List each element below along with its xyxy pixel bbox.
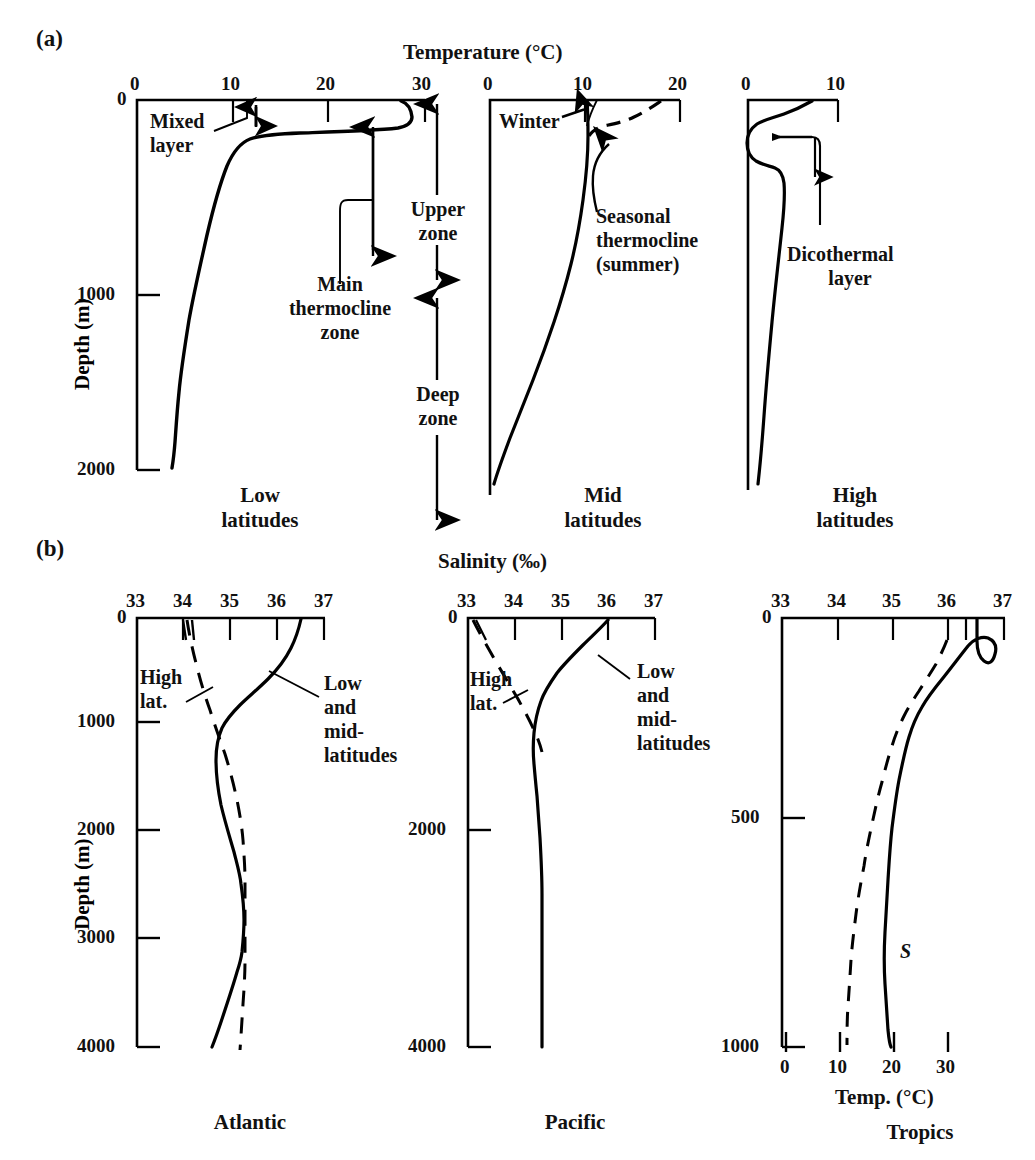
tick-low-lat-x-30: 30 (412, 73, 431, 95)
panel-name-mid-latitudes-line1: Mid (543, 483, 663, 507)
tick-atlantic-x-34: 34 (173, 590, 192, 612)
annotation-atlantic-lowmid-line4: latitudes (324, 744, 397, 767)
axis-title-tropics-temperature: Temp. (°C) (835, 1085, 934, 1109)
tick-tropics-y-0: 0 (762, 606, 772, 628)
annotation-atlantic-lowmid-line1: Low (324, 672, 362, 695)
tick-atlantic-y-3000: 3000 (77, 926, 115, 948)
tick-tropics-temp-20: 20 (882, 1056, 901, 1078)
tick-high-lat-x-10: 10 (826, 73, 845, 95)
tick-pacific-x-36: 36 (597, 590, 616, 612)
axis-label-depth-row-b: Depth (m) (70, 838, 95, 930)
tick-row-a-y-1000: 1000 (77, 283, 115, 305)
tick-pacific-y-4000: 4000 (408, 1035, 446, 1057)
axis-title-temperature: Temperature (°C) (403, 40, 562, 64)
tick-pacific-y-2000: 2000 (408, 818, 446, 840)
tick-tropics-sal-33: 33 (771, 590, 790, 612)
tick-atlantic-x-37: 37 (314, 590, 333, 612)
annotation-seasonal-thermocline-line3: (summer) (596, 253, 679, 276)
axis-label-depth-row-a: Depth (m) (70, 298, 95, 390)
panel-name-high-latitudes-line2: latitudes (795, 508, 915, 532)
tick-atlantic-y-0: 0 (117, 606, 127, 628)
axis-title-salinity: Salinity (‰) (438, 549, 547, 573)
annotation-pacific-high-lat-line1: High (470, 668, 512, 691)
annotation-mixed-layer-line1: Mixed (150, 110, 204, 133)
panel-name-tropics: Tropics (835, 1120, 1005, 1144)
tick-mid-lat-x-20: 20 (668, 73, 687, 95)
annotation-pacific-high-lat-line2: lat. (470, 692, 497, 715)
zone-deep-line1: Deep (407, 383, 469, 406)
panel-name-mid-latitudes-line2: latitudes (543, 508, 663, 532)
tick-atlantic-x-36: 36 (267, 590, 286, 612)
tick-tropics-y-500: 500 (731, 806, 760, 828)
tick-low-lat-x-20: 20 (316, 73, 335, 95)
tick-high-lat-x-0: 0 (741, 73, 751, 95)
panel-name-high-latitudes-line1: High (795, 483, 915, 507)
annotation-seasonal-thermocline-line2: thermocline (596, 229, 698, 252)
tick-mid-lat-x-10: 10 (573, 73, 592, 95)
tick-low-lat-x-10: 10 (221, 73, 240, 95)
annotation-seasonal-thermocline-line1: Seasonal (596, 205, 670, 228)
panel-name-low-latitudes-line2: latitudes (200, 508, 320, 532)
figure-graphics (0, 0, 1035, 1160)
panel-name-pacific: Pacific (490, 1110, 660, 1134)
tick-tropics-y-1000: 1000 (721, 1035, 759, 1057)
tick-pacific-x-35: 35 (551, 590, 570, 612)
chart-tropics-profiles (782, 618, 1005, 1052)
tick-row-a-y-0: 0 (117, 88, 127, 110)
annotation-main-thermocline-line2: thermocline (266, 297, 414, 320)
annotation-pacific-lowmid-line4: latitudes (637, 732, 710, 755)
tick-tropics-sal-37: 37 (993, 590, 1012, 612)
panel-name-atlantic: Atlantic (165, 1110, 335, 1134)
tick-row-a-y-2000: 2000 (77, 458, 115, 480)
annotation-pacific-lowmid-line2: and (637, 684, 669, 707)
tick-pacific-x-34: 34 (504, 590, 523, 612)
panel-name-low-latitudes-line1: Low (200, 483, 320, 507)
annotation-main-thermocline-line3: zone (276, 321, 404, 344)
zone-deep-line2: zone (407, 407, 469, 430)
annotation-atlantic-lowmid-line3: mid- (324, 720, 364, 743)
tick-tropics-temp-0: 0 (780, 1056, 790, 1078)
zone-upper-line1: Upper (407, 198, 469, 221)
annotation-mixed-layer-line2: layer (150, 134, 193, 157)
tick-pacific-x-37: 37 (644, 590, 663, 612)
annotation-dicothermal-line1: Dicothermal (787, 243, 894, 266)
tick-atlantic-y-1000: 1000 (77, 710, 115, 732)
annotation-main-thermocline-line1: Main (276, 273, 404, 296)
tick-tropics-sal-36: 36 (937, 590, 956, 612)
tick-tropics-sal-34: 34 (827, 590, 846, 612)
tick-atlantic-y-2000: 2000 (77, 818, 115, 840)
annotation-tropics-salinity-label: S (900, 940, 911, 963)
tick-atlantic-x-35: 35 (220, 590, 239, 612)
annotation-atlantic-lowmid-line2: and (324, 696, 356, 719)
tick-low-lat-x-0: 0 (130, 73, 140, 95)
tick-pacific-y-0: 0 (448, 606, 458, 628)
annotation-winter: Winter (499, 110, 560, 133)
chart-high-latitudes-temperature (747, 100, 838, 490)
tick-mid-lat-x-0: 0 (483, 73, 493, 95)
tick-tropics-temp-10: 10 (828, 1056, 847, 1078)
chart-mid-latitudes-temperature (490, 100, 680, 495)
annotation-atlantic-high-lat-line2: lat. (140, 690, 167, 713)
tick-tropics-sal-35: 35 (882, 590, 901, 612)
zone-upper-line2: zone (407, 222, 469, 245)
panel-letter-a: (a) (36, 26, 63, 52)
annotation-atlantic-high-lat-line1: High (140, 666, 182, 689)
tick-pacific-x-33: 33 (457, 590, 476, 612)
figure-root: (a) (b) Temperature (°C) Depth (m) 0 10 … (0, 0, 1035, 1160)
annotation-dicothermal-line2: layer (787, 267, 913, 290)
tick-tropics-temp-30: 30 (936, 1056, 955, 1078)
tick-atlantic-y-4000: 4000 (77, 1035, 115, 1057)
tick-atlantic-x-33: 33 (126, 590, 145, 612)
annotation-pacific-lowmid-line3: mid- (637, 708, 677, 731)
annotation-pacific-lowmid-line1: Low (637, 660, 675, 683)
panel-letter-b: (b) (36, 536, 64, 562)
